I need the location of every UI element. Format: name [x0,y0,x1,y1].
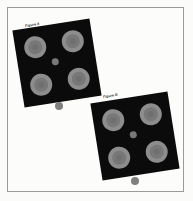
spot-core [31,43,39,51]
dark-panel-b[interactable] [90,91,179,180]
spot-top-right[interactable] [138,102,163,127]
spot-ring [65,33,81,49]
spot-bottom-left[interactable] [29,72,54,97]
spot-ring [71,71,87,87]
spot-core [153,148,161,156]
spot-ring [105,112,121,128]
spot-core [69,37,77,45]
spot-top-left[interactable] [101,108,126,133]
spot-core [37,81,45,89]
spot-ring [27,39,43,55]
figure-page: Figure A Figure B [0,0,193,201]
spot-top-right[interactable] [60,29,85,54]
panel-center-dot [51,58,59,66]
spot-bottom-right[interactable] [66,66,91,91]
spot-core [109,116,117,124]
spot-top-left[interactable] [23,35,48,60]
spot-core [115,154,123,162]
spot-ring [33,77,49,93]
panel-a-marker-dot [55,102,63,110]
spot-ring [111,150,127,166]
spot-ring [143,106,159,122]
spot-bottom-right[interactable] [144,139,169,164]
panel-b-marker-dot [131,177,139,185]
spot-ring [149,144,165,160]
dark-panel-a[interactable] [12,18,101,107]
spot-core [75,75,83,83]
panel-center-dot [129,131,137,139]
spot-core [147,110,155,118]
spot-bottom-left[interactable] [107,145,132,170]
